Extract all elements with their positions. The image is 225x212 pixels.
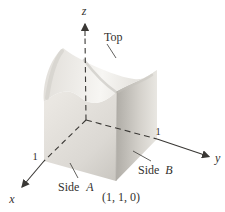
y-axis [157,139,209,157]
side-a-label: SideA [58,180,94,194]
figure: z Top 1 x 1 y SideA SideB (1, 1, 0) [0,0,225,212]
side-b-label: SideB [138,163,173,177]
x-axis-tick-1: 1 [32,151,37,162]
y-axis-tick-1: 1 [155,126,160,137]
top-label: Top [104,30,123,44]
side-b-letter: B [165,163,173,177]
z-axis-label: z [81,4,87,18]
side-a-word: Side [58,180,79,194]
x-axis-label: x [8,192,15,206]
x-axis [22,161,44,187]
top-pointer-line [107,44,116,58]
figure-canvas: z Top 1 x 1 y SideA SideB (1, 1, 0) [0,0,225,212]
side-a-face [44,91,117,181]
y-axis-label: y [214,151,221,165]
side-b-word: Side [138,163,159,177]
corner-point-label: (1, 1, 0) [102,190,140,204]
side-a-letter: A [85,180,94,194]
